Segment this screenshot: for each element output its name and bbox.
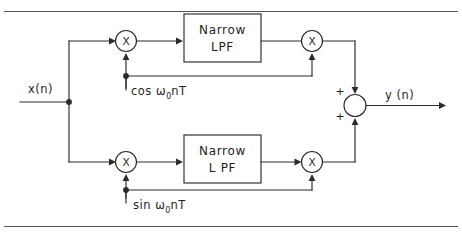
lpf-lower-line2: L PF [209, 161, 236, 175]
carrier-sine-func: sin [133, 198, 151, 212]
mult-lower-right-symbol: X [308, 156, 315, 168]
carrier-cosine-func: cos [131, 84, 152, 98]
lpf-upper-line1: Narrow [199, 23, 246, 37]
summer-sign-top: + [335, 85, 344, 98]
sin-mult4-arrowhead [309, 174, 316, 181]
upper-signal-path: X Narrow LPF X [116, 14, 359, 94]
block-diagram-canvas: X Narrow LPF X [0, 0, 462, 237]
carrier-cosine-omega: ω [156, 84, 166, 98]
figure-root: X Narrow LPF X [0, 0, 462, 237]
summer-sign-bottom: + [335, 110, 344, 123]
input-signal-path [20, 38, 116, 166]
summing-junction-circle [344, 95, 366, 117]
carrier-cosine-label: cos ω0nT [131, 84, 187, 101]
cos-mult2-arrowhead [309, 53, 316, 60]
input-label: x(n) [28, 82, 53, 96]
output-label: y (n) [385, 88, 414, 102]
mult-upper-right-symbol: X [308, 35, 315, 47]
lower-mult-input-arrowhead [295, 159, 302, 166]
carrier-sine-label: sin ω0nT [133, 198, 186, 215]
lpf-lower-line1: Narrow [199, 144, 246, 158]
upper-lpf-input-arrowhead [176, 38, 183, 45]
lower-signal-path: X Narrow L PF X [116, 118, 359, 183]
mult-lower-left-symbol: X [122, 156, 129, 168]
cos-mult1-arrowhead [123, 53, 130, 60]
summer-bottom-input-arrowhead [352, 118, 359, 125]
carrier-sine-suffix: nT [170, 198, 186, 212]
carrier-sine-omega: ω [155, 198, 165, 212]
sin-mult3-arrowhead [123, 174, 130, 181]
lower-lpf-input-arrowhead [176, 159, 183, 166]
lpf-upper-line2: LPF [211, 40, 234, 54]
lpf-lower-box [184, 135, 261, 183]
output-arrowhead [439, 102, 446, 109]
carrier-cosine-suffix: nT [171, 84, 187, 98]
lpf-upper-box [184, 14, 261, 62]
summer-top-input-arrowhead [352, 87, 359, 94]
mult-upper-left-symbol: X [122, 35, 129, 47]
